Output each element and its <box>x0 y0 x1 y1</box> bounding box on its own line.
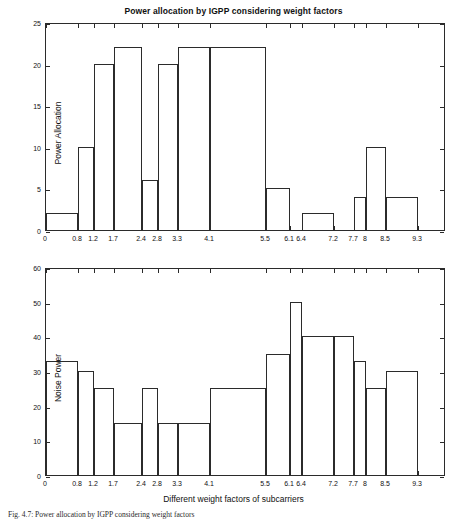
y-axis-title-bottom: Noise Power <box>53 318 63 438</box>
bar <box>266 188 290 230</box>
bar <box>302 336 334 475</box>
x-tick-label: 7.7 <box>348 480 358 487</box>
y-tick-mark <box>46 66 50 67</box>
y-tick-label: 0 <box>19 473 41 480</box>
bar <box>290 302 302 475</box>
y-tick-mark <box>440 477 444 478</box>
x-tick-mark <box>418 471 419 475</box>
x-tick-mark <box>78 269 79 273</box>
y-tick-mark <box>440 149 444 150</box>
bar <box>386 371 418 475</box>
x-tick-label: 0 <box>43 480 47 487</box>
x-tick-mark <box>94 471 95 475</box>
bar <box>210 47 266 230</box>
bar <box>114 47 142 230</box>
x-tick-mark <box>418 24 419 28</box>
x-tick-label: 6.4 <box>296 480 306 487</box>
x-tick-label: 7.2 <box>328 480 338 487</box>
bar <box>266 354 290 475</box>
y-tick-label: 10 <box>19 438 41 445</box>
x-tick-mark <box>334 226 335 230</box>
x-tick-mark <box>142 226 143 230</box>
x-tick-label: 2.4 <box>136 480 146 487</box>
x-tick-label: 6.1 <box>284 480 294 487</box>
y-tick-mark <box>46 24 50 25</box>
x-tick-mark <box>114 226 115 230</box>
x-tick-label: 4.1 <box>204 480 214 487</box>
bar <box>114 423 142 475</box>
x-tick-label: 1.7 <box>108 235 118 242</box>
x-tick-label: 8.5 <box>380 235 390 242</box>
bar <box>94 64 114 230</box>
y-tick-label: 30 <box>19 369 41 376</box>
x-tick-mark <box>366 471 367 475</box>
x-tick-mark <box>354 471 355 475</box>
x-tick-mark <box>158 226 159 230</box>
y-tick-mark <box>46 107 50 108</box>
y-tick-label: 20 <box>19 61 41 68</box>
y-tick-mark <box>440 107 444 108</box>
y-tick-mark <box>46 304 50 305</box>
bar <box>334 336 354 475</box>
bar <box>366 147 386 230</box>
y-tick-mark <box>46 408 50 409</box>
x-tick-mark <box>386 269 387 273</box>
x-tick-mark <box>290 226 291 230</box>
x-tick-label: 2.8 <box>152 480 162 487</box>
bar <box>178 47 210 230</box>
x-tick-label: 1.7 <box>108 480 118 487</box>
y-tick-label: 20 <box>19 403 41 410</box>
bar <box>210 388 266 475</box>
bar <box>366 388 386 475</box>
x-tick-mark <box>290 24 291 28</box>
bar <box>78 147 94 230</box>
x-tick-mark <box>94 24 95 28</box>
x-tick-label: 4.1 <box>204 235 214 242</box>
y-tick-mark <box>440 442 444 443</box>
x-tick-mark <box>302 471 303 475</box>
y-tick-mark <box>46 373 50 374</box>
x-tick-mark <box>354 24 355 28</box>
x-tick-label: 8.5 <box>380 480 390 487</box>
y-tick-mark <box>440 190 444 191</box>
x-tick-mark <box>366 24 367 28</box>
y-tick-mark <box>440 304 444 305</box>
bar <box>354 197 366 230</box>
y-tick-mark <box>440 408 444 409</box>
x-tick-mark <box>78 226 79 230</box>
x-tick-mark <box>114 269 115 273</box>
y-tick-label: 0 <box>19 228 41 235</box>
x-tick-mark <box>158 24 159 28</box>
x-tick-label: 8 <box>363 235 367 242</box>
bar <box>94 388 114 475</box>
bar-series-noise-power <box>46 269 444 475</box>
x-tick-mark <box>114 24 115 28</box>
x-tick-label: 9.3 <box>412 235 422 242</box>
x-tick-mark <box>210 471 211 475</box>
chart-noise-power: Noise Power 00.81.21.72.42.83.34.15.56.1… <box>0 258 467 506</box>
bar <box>354 361 366 475</box>
y-tick-label: 40 <box>19 334 41 341</box>
x-tick-mark <box>366 269 367 273</box>
bar <box>78 371 94 475</box>
x-tick-mark <box>418 226 419 230</box>
x-tick-mark <box>302 24 303 28</box>
x-tick-mark <box>302 269 303 273</box>
x-tick-mark <box>114 471 115 475</box>
y-tick-mark <box>46 477 50 478</box>
x-tick-mark <box>386 24 387 28</box>
y-tick-label: 60 <box>19 265 41 272</box>
x-tick-label: 3.3 <box>172 235 182 242</box>
bar <box>386 197 418 230</box>
x-tick-label: 8 <box>363 480 367 487</box>
chart-title-top: Power allocation by IGPP considering wei… <box>0 6 467 16</box>
y-axis-title-top: Power Allocation <box>53 73 63 193</box>
x-tick-mark <box>354 269 355 273</box>
y-tick-mark <box>440 373 444 374</box>
x-tick-mark <box>386 471 387 475</box>
x-tick-mark <box>142 24 143 28</box>
bar <box>302 213 334 230</box>
x-tick-mark <box>290 269 291 273</box>
x-tick-mark <box>386 226 387 230</box>
x-tick-mark <box>158 269 159 273</box>
